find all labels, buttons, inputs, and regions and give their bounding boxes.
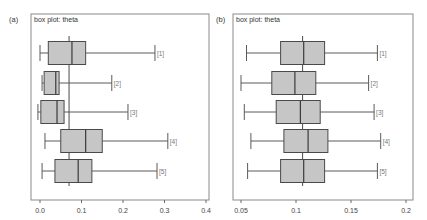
series-label: [4] xyxy=(383,138,390,146)
x-tick-label: 0.1 xyxy=(77,207,87,214)
iqr-box xyxy=(281,160,325,183)
x-tick-label: 0.0 xyxy=(35,207,45,214)
x-tick-label: 0.3 xyxy=(160,207,170,214)
x-tick-label: 0.2 xyxy=(401,207,411,214)
iqr-box xyxy=(48,42,85,65)
series-label: [3] xyxy=(130,109,137,117)
iqr-box xyxy=(276,101,320,124)
panel-b: (b) box plot: theta [1][2][3][4][5]0.050… xyxy=(216,14,413,214)
iqr-box xyxy=(44,72,59,95)
panel-a: (a) box plot: theta [1][2][3][4][5]0.00.… xyxy=(9,14,211,214)
panel-label-a: (a) xyxy=(9,15,19,24)
x-tick-label: 0.4 xyxy=(201,207,211,214)
series-label: [1] xyxy=(379,50,386,58)
series-label: [5] xyxy=(379,168,386,176)
series-label: [1] xyxy=(157,50,164,58)
figure: (a) box plot: theta [1][2][3][4][5]0.00.… xyxy=(0,0,427,220)
series-label: [2] xyxy=(371,80,378,88)
x-tick-label: 0.2 xyxy=(118,207,128,214)
x-axis: 0.00.10.20.30.4 xyxy=(35,200,211,214)
series-label: [4] xyxy=(170,138,177,146)
iqr-box xyxy=(55,160,92,183)
series-label: [3] xyxy=(376,109,383,117)
series-label: [5] xyxy=(159,168,166,176)
x-tick-label: 0.15 xyxy=(344,207,358,214)
plot-title-a: box plot: theta xyxy=(34,16,78,24)
iqr-box xyxy=(41,101,64,124)
series-label: [2] xyxy=(114,80,121,88)
iqr-box xyxy=(61,130,103,153)
iqr-box xyxy=(272,72,316,95)
panel-label-b: (b) xyxy=(216,15,226,24)
x-tick-label: 0.1 xyxy=(291,207,301,214)
iqr-box xyxy=(281,42,325,65)
x-tick-label: 0.05 xyxy=(234,207,248,214)
iqr-box xyxy=(284,130,328,153)
x-axis: 0.050.10.150.2 xyxy=(234,200,411,214)
plot-title-b: box plot: theta xyxy=(236,16,280,24)
